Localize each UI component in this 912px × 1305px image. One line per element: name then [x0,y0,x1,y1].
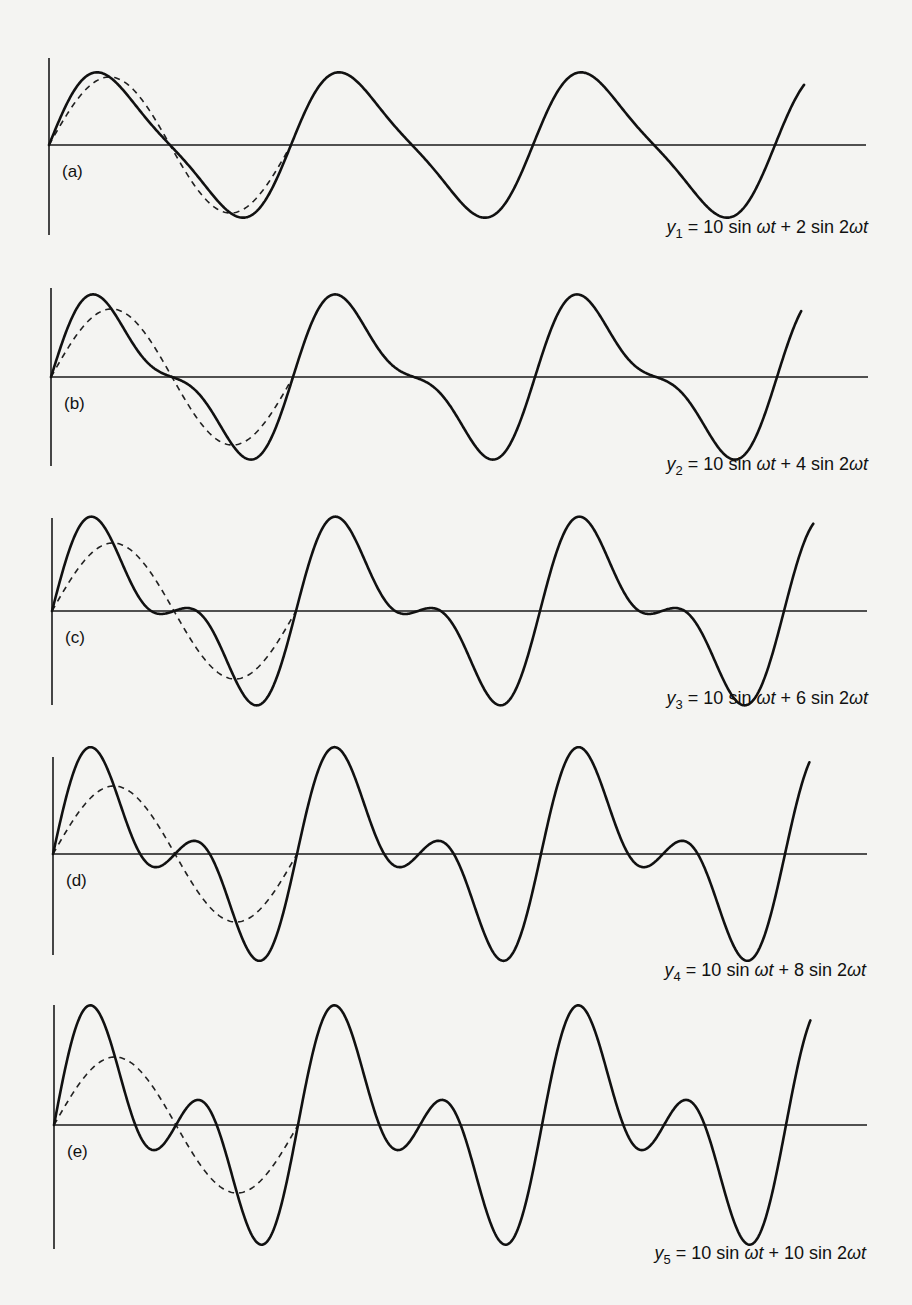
equation-part: = 10 sin [683,217,757,237]
equation-part: = 10 sin [683,454,757,474]
equation-part: = 10 sin [671,1243,745,1263]
equation-part: ωt [847,960,867,980]
equation-part: + 8 sin 2 [773,960,847,980]
panel-a: (a)y1 = 10 sin ωt + 2 sin 2ωt [49,58,869,241]
panel-label-a: (a) [62,162,83,181]
equation-part: ωt [756,688,776,708]
equation-subscript: 4 [674,969,681,984]
equation-part: ωt [849,217,869,237]
equation-label-c: y3 = 10 sin ωt + 6 sin 2ωt [665,688,869,712]
equation-part: ωt [847,1243,867,1263]
equation-part: = 10 sin [681,960,755,980]
equation-subscript: 1 [676,226,683,241]
equation-part: ωt [756,454,776,474]
equation-part: ωt [849,688,869,708]
equation-label-a: y1 = 10 sin ωt + 2 sin 2ωt [665,217,869,241]
panel-c: (c)y3 = 10 sin ωt + 6 sin 2ωt [52,517,869,712]
equation-part: ωt [756,217,776,237]
equation-label-d: y4 = 10 sin ωt + 8 sin 2ωt [663,960,867,984]
equation-label-b: y2 = 10 sin ωt + 4 sin 2ωt [665,454,869,478]
panel-label-b: (b) [64,394,85,413]
equation-part: + 10 sin 2 [763,1243,847,1263]
panel-label-d: (d) [66,871,87,890]
panel-label-e: (e) [67,1142,88,1161]
equation-part: = 10 sin [683,688,757,708]
equation-subscript: 3 [676,697,683,712]
panel-label-c: (c) [65,628,85,647]
equation-part: + 2 sin 2 [775,217,849,237]
equation-subscript: 2 [676,463,683,478]
panel-b: (b)y2 = 10 sin ωt + 4 sin 2ωt [51,288,869,478]
equation-part: ωt [754,960,774,980]
equation-subscript: 5 [664,1252,671,1267]
equation-part: + 6 sin 2 [775,688,849,708]
harmonic-waveforms-figure: (a)y1 = 10 sin ωt + 2 sin 2ωt (b)y2 = 10… [0,0,912,1305]
equation-part: + 4 sin 2 [775,454,849,474]
equation-part: ωt [849,454,869,474]
equation-label-e: y5 = 10 sin ωt + 10 sin 2ωt [653,1243,867,1267]
equation-part: ωt [744,1243,764,1263]
panel-e: (e)y5 = 10 sin ωt + 10 sin 2ωt [54,1005,867,1267]
panel-d: (d)y4 = 10 sin ωt + 8 sin 2ωt [53,747,867,984]
